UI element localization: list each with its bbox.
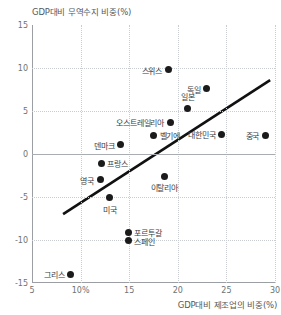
y-axis-tick-label: -10 bbox=[15, 236, 28, 245]
data-point-label: 덴마크 bbox=[94, 139, 114, 150]
data-point-label: 프랑스 bbox=[107, 158, 127, 169]
data-point bbox=[165, 66, 172, 73]
y-axis-tick-label: 10 bbox=[18, 64, 28, 73]
data-point-label: 대한민국 bbox=[188, 129, 215, 140]
data-point-label: 오스트레일리아 bbox=[116, 117, 164, 128]
zero-reference-line bbox=[32, 154, 275, 155]
chart-root: GDP대비 무역수지 비중(%) GDP대비 제조업의 비중(%) 510%15… bbox=[0, 0, 281, 315]
data-point-label: 이탈리아 bbox=[151, 182, 178, 193]
data-point-label: 중국 bbox=[246, 130, 260, 141]
data-point bbox=[106, 194, 113, 201]
gridline-horizontal bbox=[32, 197, 275, 198]
y-axis-tick-label: 0 bbox=[23, 150, 28, 159]
data-point-label: 영국 bbox=[80, 174, 94, 185]
data-point-label: 벨기에 bbox=[160, 130, 180, 141]
data-point bbox=[262, 132, 269, 139]
data-point bbox=[218, 131, 225, 138]
data-point bbox=[184, 105, 191, 112]
data-point-label: 일본 bbox=[181, 91, 195, 102]
x-axis-tick-label: 20 bbox=[173, 286, 183, 295]
data-point bbox=[117, 141, 124, 148]
y-axis-tick-label: -5 bbox=[20, 193, 28, 202]
data-point bbox=[203, 85, 210, 92]
data-point bbox=[125, 229, 132, 236]
plot-area: 510%15202530151050-5-10-15스위스독일일본오스트레일리아… bbox=[32, 25, 275, 283]
gridline-vertical bbox=[275, 25, 276, 283]
gridline-horizontal bbox=[32, 111, 275, 112]
data-point bbox=[98, 160, 105, 167]
data-point bbox=[161, 173, 168, 180]
data-point bbox=[167, 119, 174, 126]
x-axis-title: GDP대비 제조업의 비중(%) bbox=[178, 298, 277, 310]
y-axis-tick-label: -15 bbox=[15, 279, 28, 288]
data-point bbox=[150, 132, 157, 139]
x-axis-tick-label: 30 bbox=[270, 286, 280, 295]
y-axis-tick-label: 15 bbox=[18, 21, 28, 30]
x-axis-tick-label: 15 bbox=[124, 286, 134, 295]
x-axis-tick-label: 5 bbox=[29, 286, 34, 295]
data-point-label: 스페인 bbox=[134, 235, 154, 246]
x-axis-tick-label: 25 bbox=[221, 286, 231, 295]
x-axis-line bbox=[32, 282, 275, 283]
data-point-label: 스위스 bbox=[142, 64, 162, 75]
data-point bbox=[67, 271, 74, 278]
data-point-label: 그리스 bbox=[44, 269, 64, 280]
y-axis-title: GDP대비 무역수지 비중(%) bbox=[32, 5, 131, 17]
data-point bbox=[97, 176, 104, 183]
data-point-label: 미국 bbox=[103, 204, 117, 215]
x-axis-tick-label: 10% bbox=[72, 286, 90, 295]
y-axis-tick-label: 5 bbox=[23, 107, 28, 116]
data-point bbox=[125, 237, 132, 244]
